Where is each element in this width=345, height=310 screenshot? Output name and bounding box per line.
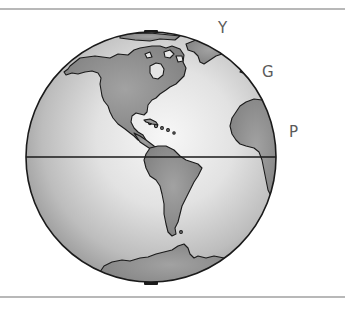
label-y: Y xyxy=(218,21,227,36)
caribbean-island xyxy=(167,129,170,132)
label-g: G xyxy=(262,65,274,80)
caribbean-island xyxy=(173,132,175,134)
bottom-divider-rule xyxy=(0,296,345,298)
falkland-island xyxy=(180,231,183,234)
caribbean-island xyxy=(161,127,164,130)
label-p: P xyxy=(289,125,298,140)
globe-diagram xyxy=(0,0,345,310)
